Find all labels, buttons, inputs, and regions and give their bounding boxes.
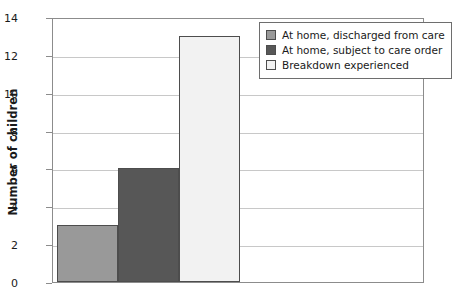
legend-item[interactable]: At home, subject to care order [266, 43, 445, 57]
bar[interactable] [118, 168, 179, 282]
bar[interactable] [57, 225, 118, 282]
y-axis-tick-label: 14 [0, 12, 18, 25]
y-axis-tick-label: 4 [0, 201, 18, 214]
y-axis-tick-label: 2 [0, 239, 18, 252]
legend: At home, discharged from care At home, s… [259, 22, 452, 79]
legend-swatch-discharged [266, 30, 276, 40]
legend-label-care-order: At home, subject to care order [282, 44, 442, 56]
y-axis-tick-mark [46, 283, 52, 284]
y-axis-tick-label: 8 [0, 125, 18, 138]
y-axis-tick-label: 12 [0, 49, 18, 62]
legend-label-discharged: At home, discharged from care [282, 29, 445, 41]
legend-swatch-care-order [266, 45, 276, 55]
plot-area: At home, discharged from care At home, s… [52, 18, 424, 283]
bar[interactable] [179, 36, 240, 282]
legend-label-breakdown: Breakdown experienced [282, 59, 409, 71]
y-axis-title: Number of children [0, 0, 26, 304]
y-axis-tick-label: 6 [0, 163, 18, 176]
y-axis-tick-label: 0 [0, 277, 18, 290]
legend-swatch-breakdown [266, 60, 276, 70]
legend-item[interactable]: At home, discharged from care [266, 28, 445, 42]
legend-item[interactable]: Breakdown experienced [266, 58, 445, 72]
y-axis-tick-label: 10 [0, 87, 18, 100]
